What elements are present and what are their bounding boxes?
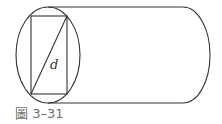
diagonal-d <box>31 16 67 94</box>
figure-caption: 圖 3–31 <box>15 106 63 122</box>
diagonal-label: d <box>50 57 58 72</box>
cylinder-end-face <box>16 7 80 103</box>
cylinder-outline <box>48 7 210 103</box>
